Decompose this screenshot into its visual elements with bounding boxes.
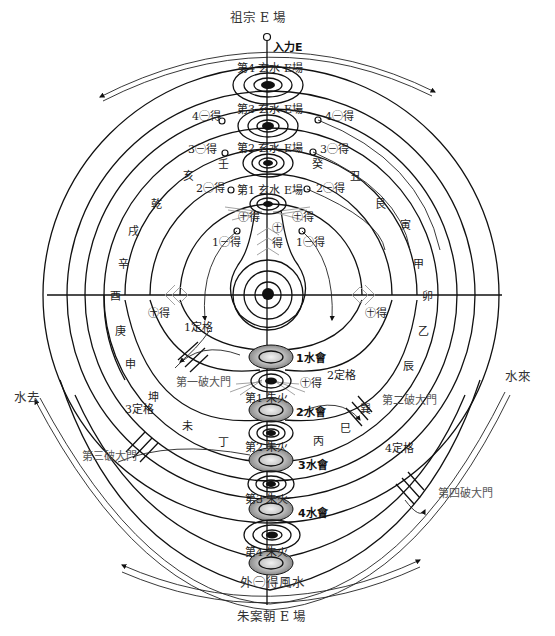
gain-right-1: 1㊀得: [296, 236, 325, 249]
svg-text:未: 未: [182, 420, 193, 433]
shuihui-label-3: 3水會: [298, 458, 329, 472]
dingge-2: 2定格: [327, 368, 356, 382]
xuanshui-label-4: 第4 玄水 E場: [237, 61, 303, 75]
svg-text:巳: 巳: [340, 422, 351, 435]
gain-left-1: 1㊀得: [212, 236, 241, 249]
title-bottom: 朱案朝 E 場: [237, 609, 306, 624]
dingge-4: 4定格: [385, 441, 414, 455]
zhuhuo-label-3: 第3 朱火: [245, 492, 289, 506]
svg-text:辛: 辛: [118, 257, 129, 271]
gain-right-2: 2㊀得: [316, 182, 345, 195]
svg-text:乙: 乙: [418, 325, 429, 338]
fengshui-energy-field-diagram: 祖宗 E 場 入力E 第4 玄水 E場 第3 玄水 E場 第2 玄水 E場 第1…: [0, 0, 555, 636]
svg-text:辰: 辰: [403, 360, 414, 373]
water-in-label: 水來: [505, 369, 531, 384]
center-target: [233, 260, 303, 330]
gate-4: [396, 472, 425, 513]
gate-label-4: 第四破大門: [438, 486, 493, 500]
xuanshui-label-1: 第1 玄水 E場: [237, 183, 303, 197]
svg-text:酉: 酉: [110, 290, 121, 303]
title-top: 祖宗 E 場: [230, 10, 286, 25]
dingge-3: 3定格: [125, 402, 154, 416]
plus-gain-3: ㊉得: [148, 307, 170, 320]
plus-gain-4: ㊉得: [365, 307, 387, 320]
gain-right-4: 4㊀得: [325, 110, 354, 123]
svg-text:艮: 艮: [375, 198, 386, 211]
svg-text:壬: 壬: [218, 158, 229, 171]
dingge-1: 1定格: [184, 320, 213, 334]
center-gain: 得: [272, 237, 283, 250]
svg-text:亥: 亥: [183, 169, 194, 183]
gate-label-3: 第三破大門: [82, 449, 137, 463]
outer-gain-label: 外㊀得風水: [240, 575, 305, 590]
plus-gain-2: ㊉得: [292, 211, 314, 224]
svg-text:坤: 坤: [148, 390, 159, 404]
plus-gain-1: ㊉得: [238, 211, 260, 224]
shuihui-label-4: 4水會: [298, 506, 329, 520]
svg-text:甲: 甲: [413, 258, 424, 271]
plus-gain-5: ㊉得: [300, 377, 322, 390]
gate-label-1: 第一破大門: [176, 375, 231, 389]
zhuhuo-label-4: 第4 朱火: [245, 545, 289, 559]
zhuhuo-label-1: 第1 朱火: [245, 391, 289, 405]
svg-text:丑: 丑: [350, 170, 361, 183]
gain-left-2: 2㊀得: [196, 182, 225, 195]
svg-text:寅: 寅: [400, 218, 411, 232]
svg-text:丙: 丙: [313, 435, 324, 448]
shuihui-1: [249, 345, 293, 369]
xuanshui-label-2: 第2 玄水 E場: [237, 141, 303, 155]
svg-text:巽: 巽: [360, 403, 371, 416]
zhuhuo-label-2: 第2 朱火: [245, 440, 289, 454]
svg-text:庚: 庚: [115, 324, 126, 338]
input-label: 入力E: [273, 40, 303, 54]
shuihui-label-1: 1水會: [296, 351, 327, 365]
svg-text:丁: 丁: [218, 436, 229, 449]
center-plus: ㊉: [272, 222, 283, 235]
gain-left-4: 4㊀得: [192, 110, 221, 123]
svg-text:戌: 戌: [128, 225, 139, 238]
svg-text:卯: 卯: [422, 290, 433, 303]
water-out-label: 水去: [14, 390, 40, 405]
shuihui-label-2: 2水會: [296, 405, 327, 419]
gain-left-3: 3㊀得: [188, 143, 217, 156]
zhuhuo-target-1: [251, 370, 291, 392]
svg-text:乾: 乾: [151, 198, 162, 211]
gain-right-3: 3㊀得: [320, 143, 349, 156]
origin-node: [264, 34, 271, 41]
gate-label-2: 第二破大門: [382, 393, 437, 407]
svg-text:癸: 癸: [312, 157, 323, 171]
svg-text:申: 申: [125, 358, 136, 371]
xuanshui-label-3: 第3 玄水 E場: [237, 102, 303, 116]
